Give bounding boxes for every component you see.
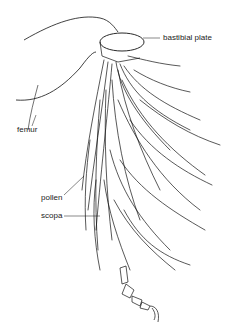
label-pollen: pollen — [41, 194, 62, 202]
leg-diagram: bastibial plate femur pollen scopa — [0, 0, 232, 336]
label-femur: femur — [17, 126, 37, 134]
label-bastibial-plate: bastibial plate — [163, 34, 212, 42]
leg-illustration — [0, 0, 232, 336]
label-scopa: scopa — [41, 212, 62, 220]
